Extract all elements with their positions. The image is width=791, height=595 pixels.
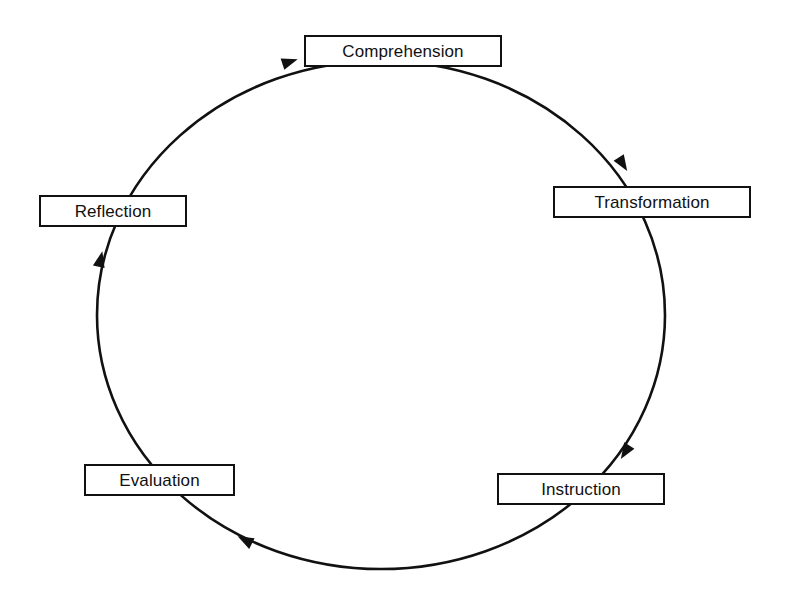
node-label: Transformation xyxy=(594,194,709,211)
node-label: Instruction xyxy=(541,481,621,498)
node-label: Evaluation xyxy=(119,472,199,489)
cycle-diagram: Comprehension Transformation Instruction… xyxy=(0,0,791,595)
node-label: Reflection xyxy=(75,203,152,220)
node-instruction: Instruction xyxy=(497,473,665,505)
node-comprehension: Comprehension xyxy=(304,35,502,67)
node-label: Comprehension xyxy=(342,43,463,60)
node-reflection: Reflection xyxy=(39,195,187,227)
node-transformation: Transformation xyxy=(553,186,751,218)
arrowhead-icon xyxy=(281,53,300,69)
cycle-connector-ring xyxy=(0,0,791,595)
node-evaluation: Evaluation xyxy=(84,464,235,496)
